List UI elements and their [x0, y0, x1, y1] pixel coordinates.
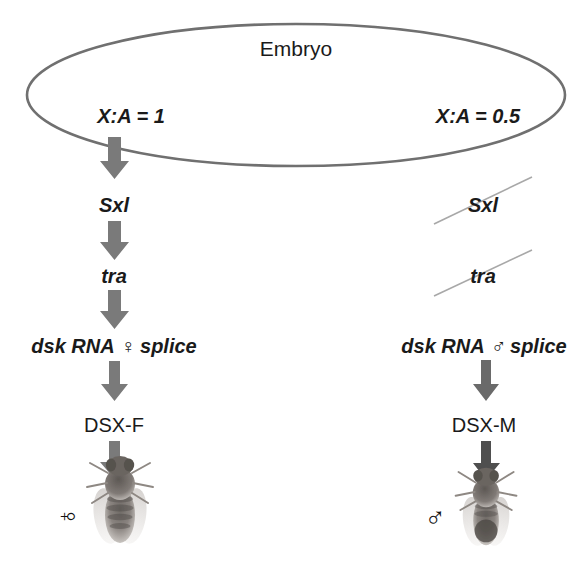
fruit-fly-male-photo: [456, 468, 517, 548]
female-symbol-glyph: ♀: [53, 507, 84, 527]
female-arrow-tra-to-splice: [100, 290, 129, 329]
male-step-tra: tra: [470, 266, 496, 286]
female-arrow-splice-to-dsxf: [101, 361, 128, 401]
male-symbol: ♂: [425, 502, 446, 534]
female-arrow-embryo-to-sxl: [100, 137, 129, 179]
male-ratio-label: X:A = 0.5: [436, 106, 520, 126]
male-step-dsx: DSX-M: [452, 415, 516, 435]
female-step-splice: dsk RNA ♀ splice: [31, 336, 196, 356]
embryo-label: Embryo: [260, 38, 332, 59]
fruit-fly-female-photo: [87, 456, 153, 546]
diagram-graphics-layer: [0, 0, 581, 583]
female-ratio-label: X:A = 1: [97, 106, 165, 126]
female-symbol: ♀: [58, 500, 78, 532]
male-step-sxl: Sxl: [468, 195, 498, 215]
male-arrow-splice-to-dsxm: [473, 360, 499, 401]
female-arrow-sxl-to-tra: [100, 221, 129, 260]
female-step-sxl: Sxl: [99, 195, 129, 215]
male-step-splice: dsk RNA ♂ splice: [401, 336, 566, 356]
sex-determination-pathway-figure: Embryo X:A = 1 X:A = 0.5 Sxl tra dsk RNA…: [0, 0, 581, 583]
female-step-dsx: DSX-F: [84, 415, 144, 435]
female-step-tra: tra: [101, 266, 127, 286]
